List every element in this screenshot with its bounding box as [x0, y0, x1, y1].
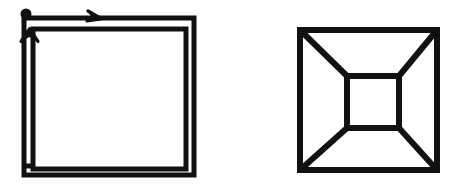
- diagonal-top-right: [399, 30, 437, 76]
- right-inner-square: [347, 76, 399, 128]
- figure-one-point-perspective-box: [232, 0, 463, 191]
- diagonal-bottom-left: [300, 128, 347, 170]
- diagonal-bottom-right: [399, 128, 437, 170]
- figure-canvas: [0, 0, 463, 191]
- start-point-dot: [21, 9, 32, 20]
- figure-double-square-with-arrows: [0, 0, 232, 191]
- left-outer-square: [24, 18, 194, 175]
- diagonal-top-left: [300, 30, 347, 76]
- left-inner-square: [33, 29, 186, 169]
